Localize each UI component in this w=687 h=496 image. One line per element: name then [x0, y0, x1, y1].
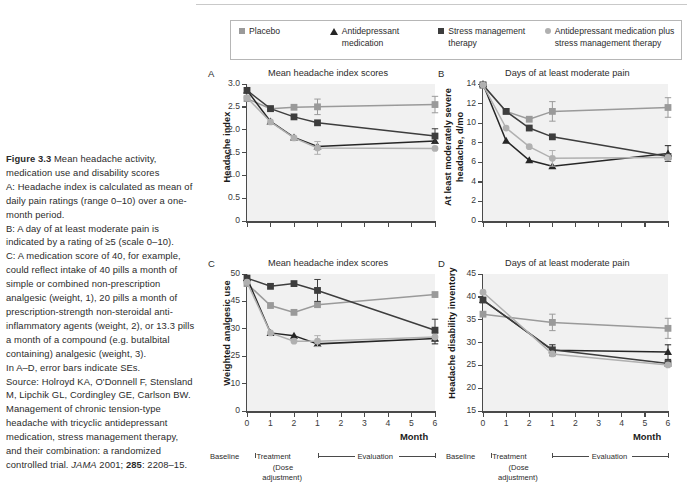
legend-item-antidepressant: Antidepressant medication [330, 26, 439, 49]
y-tick-A [242, 106, 246, 107]
y-tick-label-C: 0 [207, 405, 240, 415]
x-tick-label-C: 0 [237, 418, 257, 428]
y-tick-B [478, 181, 482, 182]
x-tick-label-C: 5 [402, 418, 422, 428]
y-tick-label-C: 30 [207, 323, 240, 333]
x-tick-A [294, 223, 295, 227]
y-tick-label-B: 12 [443, 98, 476, 108]
y-tick-label-A: 2.0 [207, 124, 240, 134]
caption-line-errorbars: In A–D, error bars indicate SEs. [6, 361, 196, 375]
x-tick-B [621, 223, 622, 227]
y-tick-label-C: 10 [207, 378, 240, 388]
phase-rule-evaluation-right-D [632, 456, 668, 457]
y-tick-label-C: 25 [207, 350, 240, 360]
figure-page: Figure 3.3 Mean headache activity, medic… [0, 0, 687, 496]
caption-pages: : 2208–15. [142, 459, 187, 470]
caption-volume: 285 [126, 459, 142, 470]
caption-journal: JAMA [71, 459, 96, 470]
y-axis-line-C [246, 274, 247, 411]
x-axis-label-C: Month [400, 431, 428, 442]
x-tick-A [317, 223, 318, 227]
panel-title-A: Mean headache index scores [268, 68, 388, 78]
y-tick-D [478, 411, 482, 412]
panel-title-D: Days of at least moderate pain [505, 258, 630, 268]
y-tick-B [478, 123, 482, 124]
y-tick-A [242, 152, 246, 153]
caption-line-a: A: Headache index is calculated as mean … [6, 180, 196, 222]
y-tick-A [242, 198, 246, 199]
phase-rule-evaluation-right-C [399, 456, 435, 457]
legend-item-combined: Antidepressant medication plus stress ma… [545, 26, 675, 49]
y-tick-B [478, 103, 482, 104]
y-tick-D [478, 296, 482, 297]
legend-label: Antidepressant medication [342, 26, 439, 49]
plot-area-A [247, 84, 435, 221]
x-tick-C [317, 413, 318, 417]
x-tick-A [388, 223, 389, 227]
y-tick-label-B: 10 [443, 117, 476, 127]
figure-label: Figure 3.3 [6, 153, 51, 164]
x-tick-B [644, 223, 645, 227]
x-tick-A [435, 223, 436, 227]
phase-dose-line2-C: adjustment) [262, 473, 302, 482]
x-tick-label-C: 1 [308, 418, 328, 428]
x-tick-A [411, 223, 412, 227]
y-tick-label-D: 15 [443, 405, 476, 415]
y-tick-A [242, 84, 246, 85]
x-tick-D [621, 413, 622, 417]
x-tick-D [644, 413, 645, 417]
phase-rule-evaluation-left-D [552, 456, 589, 457]
x-tick-A [364, 223, 365, 227]
y-tick-D [478, 274, 482, 275]
y-tick-label-D: 25 [443, 359, 476, 369]
chart-legend: Placebo Antidepressant medication Stress… [230, 20, 682, 60]
y-tick-B [478, 162, 482, 163]
y-tick-C [242, 411, 246, 412]
caption-source-prefix: Source: [6, 376, 42, 387]
x-tick-D [529, 413, 530, 417]
phase-rule-evaluation-left-C [318, 456, 356, 457]
phase-label-evaluation-D: Evaluation [592, 452, 627, 461]
y-tick-C [242, 328, 246, 329]
y-tick-label-A: 2.5 [207, 101, 240, 111]
x-tick-C [435, 413, 436, 417]
square-marker-icon [239, 28, 245, 34]
x-tick-A [247, 223, 248, 227]
x-tick-label-D: 1 [542, 418, 562, 428]
y-tick-label-A: 1.0 [207, 169, 240, 179]
x-tick-label-D: 6 [658, 418, 678, 428]
caption-line-b: B: A day of at least moderate pain is in… [6, 222, 196, 250]
x-tick-label-C: 2 [284, 418, 304, 428]
x-tick-label-D: 3 [589, 418, 609, 428]
x-tick-D [575, 413, 576, 417]
x-tick-label-D: 2 [519, 418, 539, 428]
x-tick-B [529, 223, 530, 227]
y-tick-A [242, 175, 246, 176]
y-tick-C [242, 356, 246, 357]
x-tick-D [668, 413, 669, 417]
caption-source-text: Holroyd KA, O'Donnell F, Stensland M, Li… [6, 376, 193, 470]
x-axis-label-D: Month [633, 431, 661, 442]
y-tick-C [242, 274, 246, 275]
y-tick-label-A: 1.5 [207, 147, 240, 157]
y-tick-label-D: 20 [443, 382, 476, 392]
legend-item-placebo: Placebo [239, 26, 330, 38]
x-tick-label-D: 1 [496, 418, 516, 428]
x-tick-C [364, 413, 365, 417]
phase-label-evaluation-C: Evaluation [357, 452, 392, 461]
y-tick-B [478, 142, 482, 143]
phase-label-baseline-D: Baseline [446, 452, 475, 461]
x-tick-label-D: 2 [566, 418, 586, 428]
x-tick-D [598, 413, 599, 417]
x-tick-A [270, 223, 271, 227]
figure-caption: Figure 3.3 Mean headache activity, medic… [6, 152, 196, 472]
phase-label-treatment-D: Treatment [492, 452, 526, 461]
y-tick-D [478, 388, 482, 389]
y-tick-A [242, 221, 246, 222]
phase-dose-line1-C: (Dose [273, 463, 293, 472]
y-tick-label-B: 8 [443, 137, 476, 147]
phase-label-baseline-C: Baseline [210, 452, 239, 461]
panel-title-B: Days of at least moderate pain [505, 68, 630, 78]
y-tick-label-D: 35 [443, 314, 476, 324]
phase-divider-end-C [435, 453, 436, 458]
